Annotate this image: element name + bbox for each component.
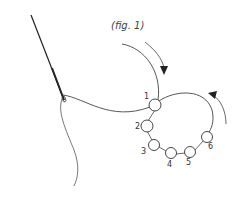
- bead-label-4: 4: [167, 160, 172, 169]
- bead-5: [185, 147, 196, 158]
- bead-label-1: 1: [144, 92, 149, 101]
- bead-3: [149, 140, 160, 151]
- bead-2: [141, 120, 153, 132]
- bead-label-5: 5: [186, 158, 191, 167]
- arrow-down-icon: [145, 42, 168, 75]
- bead-label-6: 6: [208, 142, 213, 151]
- figure-caption: (fig. 1): [111, 20, 144, 31]
- bead-label-3: 3: [141, 147, 146, 156]
- beading-diagram: (fig. 1) 1 2 3 4 5 6: [0, 0, 244, 203]
- thread-loop: [159, 93, 213, 132]
- beads: [141, 99, 213, 159]
- thread-top-arc: [122, 44, 159, 100]
- needle-icon: [31, 15, 67, 102]
- thread-to-bead-1: [63, 95, 150, 112]
- bead-label-2: 2: [135, 122, 140, 131]
- thread-tail: [61, 97, 78, 186]
- bead-4: [166, 148, 177, 159]
- bead-6: [202, 132, 213, 143]
- bead-1: [149, 99, 161, 111]
